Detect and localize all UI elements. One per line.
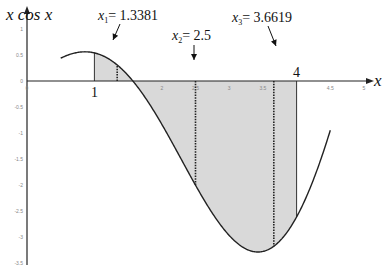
x-axis-arrow	[366, 78, 374, 84]
bound-label-1: 1	[91, 85, 98, 100]
annotation-label-x1: x1= 1.3381	[97, 8, 158, 25]
y-tick-label: 0.5	[16, 52, 23, 58]
chart: 022.533.54.5510.50-0.5-1-1.5-2-2.5-3-3.5…	[0, 0, 390, 275]
y-tick-label: -1	[19, 130, 24, 136]
annotation-x3: x3= 3.6619	[231, 10, 292, 46]
annotation-label-x2: x2= 2.5	[171, 28, 211, 45]
annotations-layer: x1= 1.3381x2= 2.5x3= 3.6619	[97, 8, 292, 60]
bound-label-4: 4	[293, 65, 300, 80]
annotation-label-x3: x3= 3.6619	[231, 10, 292, 27]
x-tick-label: 3	[228, 85, 231, 91]
x-tick-label: 2.5	[192, 85, 199, 91]
x-axis-label: x	[373, 71, 382, 90]
y-tick-label: -0.5	[14, 104, 23, 110]
x-tick-label: 2	[160, 85, 163, 91]
y-tick-label: -3.5	[14, 260, 23, 266]
y-tick-label: 1	[20, 26, 23, 32]
annotation-x1: x1= 1.3381	[97, 8, 158, 40]
annotation-value: = 2.5	[182, 28, 211, 43]
y-tick-label: -2.5	[14, 208, 23, 214]
y-tick-label: -1.5	[14, 156, 23, 162]
x-tick-label: 5	[363, 85, 366, 91]
x-tick-label: 0	[26, 85, 29, 91]
x-tick-label: 3.5	[259, 85, 266, 91]
y-tick-label: -2	[19, 182, 24, 188]
y-axis-label: x cos x	[5, 5, 53, 24]
annotation-value: = 1.3381	[108, 8, 158, 23]
y-tick-label: 0	[20, 78, 23, 84]
annotation-arrowhead-x2	[191, 54, 197, 60]
annotation-value: = 3.6619	[242, 10, 292, 25]
x-tick-label: 4.5	[327, 85, 334, 91]
annotation-x2: x2= 2.5	[171, 28, 211, 60]
y-tick-label: -3	[19, 234, 24, 240]
